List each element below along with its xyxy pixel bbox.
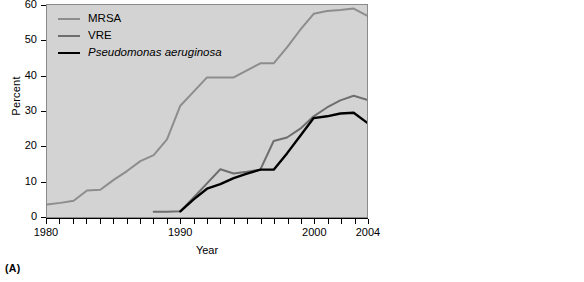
y-axis-ticks: 0102030405060	[12, 4, 46, 218]
x-axis-tick-mark	[167, 219, 168, 224]
x-axis-tick-mark	[288, 219, 289, 224]
legend-item: VRE	[58, 27, 222, 44]
x-axis-tick-mark	[46, 219, 47, 224]
panel-a-chart: Percent 0102030405060 MRSAVREPseudomonas…	[0, 0, 390, 282]
panel-a-label: (A)	[5, 262, 20, 274]
y-axis-tick-label: 40	[11, 70, 37, 81]
x-axis-tick-mark	[314, 219, 315, 224]
x-axis-tick-mark	[328, 219, 329, 224]
x-axis-tick-mark	[153, 219, 154, 224]
x-axis-tick-mark	[368, 219, 369, 224]
x-axis-tick-mark	[207, 219, 208, 224]
y-axis-tick-label: 10	[11, 176, 37, 187]
x-axis-ticks	[46, 219, 368, 225]
legend-swatch	[58, 35, 80, 37]
x-axis-tick-mark	[180, 219, 181, 224]
y-axis-tick-label: 30	[11, 105, 37, 116]
panel-b-cdc: CDC Recommendations for Appropriate Anti…	[390, 0, 584, 282]
x-axis-tick-label: 1980	[26, 226, 66, 238]
legend-label: VRE	[88, 30, 112, 42]
y-axis-tick-label: 20	[11, 140, 37, 151]
y-axis-tick-label: 60	[11, 0, 37, 10]
x-axis-tick-mark	[301, 219, 302, 224]
x-axis-tick-label: 2004	[348, 226, 388, 238]
x-axis-tick-mark	[100, 219, 101, 224]
y-axis-tick-label: 0	[11, 211, 37, 222]
x-axis-tick-mark	[220, 219, 221, 224]
chart-legend: MRSAVREPseudomonas aeruginosa	[58, 10, 222, 61]
x-axis-tick-mark	[261, 219, 262, 224]
x-axis-tick-mark	[194, 219, 195, 224]
x-axis-tick-mark	[86, 219, 87, 224]
chart-area: Percent 0102030405060 MRSAVREPseudomonas…	[0, 0, 390, 256]
x-axis-tick-mark	[127, 219, 128, 224]
legend-label: MRSA	[88, 13, 121, 25]
legend-item: MRSA	[58, 10, 222, 27]
x-axis-tick-labels: 1980199020002004	[0, 226, 390, 240]
x-axis-tick-mark	[234, 219, 235, 224]
x-axis-tick-mark	[73, 219, 74, 224]
x-axis-tick-mark	[140, 219, 141, 224]
legend-item: Pseudomonas aeruginosa	[58, 44, 222, 61]
legend-label: Pseudomonas aeruginosa	[88, 47, 222, 59]
x-axis-tick-mark	[113, 219, 114, 224]
x-axis-tick-mark	[355, 219, 356, 224]
x-axis-tick-label: 1990	[160, 226, 200, 238]
legend-swatch	[58, 18, 80, 20]
x-axis-tick-mark	[341, 219, 342, 224]
x-axis-tick-mark	[59, 219, 60, 224]
series-line	[154, 96, 367, 212]
x-axis-tick-mark	[247, 219, 248, 224]
series-line	[180, 113, 367, 212]
x-axis-tick-label: 2000	[294, 226, 334, 238]
x-axis-tick-mark	[274, 219, 275, 224]
y-axis-tick-label: 50	[11, 34, 37, 45]
legend-swatch	[58, 52, 80, 54]
x-axis-title: Year	[46, 244, 368, 256]
